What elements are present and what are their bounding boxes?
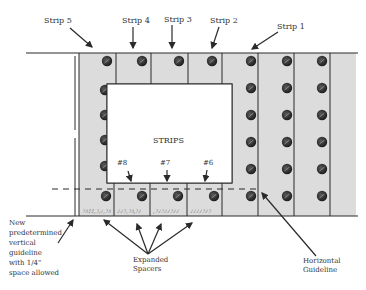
- svg-text:New: New: [9, 219, 25, 227]
- svg-text:space allowed: space allowed: [9, 269, 60, 277]
- strip-3-label: Strip 3: [164, 15, 192, 24]
- label-6: #6: [203, 159, 214, 167]
- label-8: #8: [117, 159, 127, 167]
- label-7: #7: [160, 159, 170, 167]
- svg-text:vertical: vertical: [8, 239, 37, 247]
- strip-1-arrow: [252, 32, 278, 49]
- vertical-guideline-callout: New predetermined vertical guideline wit…: [8, 219, 73, 277]
- strip-5-label: Strip 5: [44, 16, 72, 25]
- svg-text:Guideline: Guideline: [303, 266, 337, 274]
- spacers-callout: Expanded Spacers: [104, 220, 192, 273]
- strip-5-arrow: [70, 28, 92, 47]
- diagram-title: STRIPS: [153, 136, 184, 145]
- window-cutout-overlay: [107, 84, 232, 183]
- strip-4-label: Strip 4: [122, 16, 150, 25]
- svg-text:ﾌﾊﾐﾐ,ﾌ,ﾉ,ﾌﾊ: ﾌﾊﾐﾐ,ﾌ,ﾉ,ﾌﾊ: [82, 208, 111, 214]
- strip-2-arrow: [212, 27, 219, 48]
- strip-1-label: Strip 1: [277, 22, 305, 31]
- strips-diagram: ﾌﾊﾐﾐ,ﾌ,ﾉ,ﾌﾊ ﾉﾉﾌ,ﾌﾊ,ﾌﾉ ,ﾌﾉﾌﾉﾉﾌﾉﾉ ﾉﾉﾉﾉﾌﾉﾌ …: [0, 0, 366, 290]
- svg-text:ﾉﾉﾌ,ﾌﾊ,ﾌﾉ: ﾉﾉﾌ,ﾌﾊ,ﾌﾉ: [117, 208, 141, 214]
- svg-text:ﾉﾉﾉﾉﾌﾉﾌ: ﾉﾉﾉﾉﾌﾉﾌ: [190, 208, 212, 214]
- svg-text:predetermined: predetermined: [9, 229, 62, 237]
- svg-text:guideline: guideline: [9, 249, 42, 257]
- svg-text:with 1/4": with 1/4": [9, 259, 41, 267]
- strip-2-label: Strip 2: [210, 16, 238, 25]
- svg-text:,ﾌﾉﾌﾉﾉﾌﾉﾉ: ,ﾌﾉﾌﾉﾉﾌﾉﾉ: [153, 208, 179, 214]
- svg-text:Spacers: Spacers: [133, 265, 162, 273]
- svg-text:Expanded: Expanded: [133, 256, 169, 264]
- svg-text:Horizontal: Horizontal: [303, 257, 341, 265]
- strip-arrows: [70, 25, 278, 49]
